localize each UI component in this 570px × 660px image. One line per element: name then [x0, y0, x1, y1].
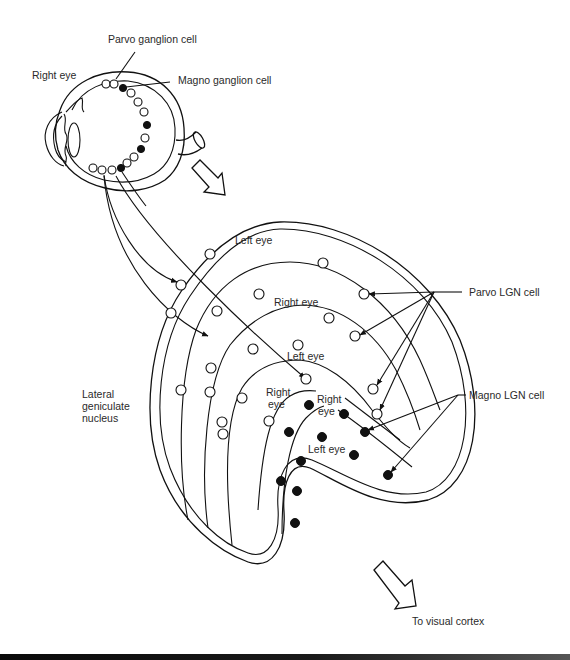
parvo-lgn-cell	[248, 344, 258, 354]
magno-lgn-cell	[297, 457, 306, 466]
label-layer-left-eye-6: Left eye	[308, 443, 346, 455]
bottom-scan-edge	[0, 654, 570, 660]
magno-lgn-cell	[361, 428, 370, 437]
layer-boundary-2	[205, 305, 420, 528]
parvo-ganglion-cell	[141, 134, 149, 142]
layer-boundary-5-right	[345, 398, 400, 440]
label-layer-right-eye-4a: Right	[266, 386, 291, 398]
parvo-lgn-cell	[301, 374, 311, 384]
parvo-lgn-cell	[350, 331, 360, 341]
magno-lgn-cell	[340, 410, 349, 419]
parvo-lgn-cell	[359, 289, 369, 299]
axon-fibres	[104, 172, 305, 378]
parvo-lgn-cell	[324, 313, 334, 323]
lateral-geniculate-nucleus	[150, 222, 475, 564]
parvo-lgn-cell	[166, 308, 176, 318]
axon-to-right	[116, 176, 305, 378]
axon-to-left-inner	[104, 176, 208, 336]
magno-lgn-cell	[318, 433, 327, 442]
parvo-ganglion-cell	[89, 164, 97, 172]
retina-cells	[89, 80, 151, 174]
magno-lgn-cells	[277, 401, 393, 528]
parvo-lgn-cell	[205, 249, 215, 259]
parvo-lgn-cell	[237, 393, 247, 403]
parvo-ganglion-cell	[134, 98, 142, 106]
label-layer-right-eye-5a: Right	[317, 393, 342, 405]
label-layer-right-eye-2: Right eye	[274, 296, 319, 308]
label-lgn-line2: geniculate	[82, 400, 130, 412]
arrow-eye-to-lgn-icon	[192, 160, 225, 195]
arrow-to-cortex-icon	[374, 561, 416, 609]
label-parvo-ganglion-cell: Parvo ganglion cell	[108, 33, 197, 45]
optic-nerve	[176, 132, 202, 155]
label-lgn-line1: Lateral	[82, 388, 114, 400]
parvo-ganglion-cell	[140, 108, 148, 116]
layer-boundary-5	[282, 406, 324, 534]
magno-lgn-cell	[350, 451, 359, 460]
parvo-lgn-cell	[212, 306, 222, 316]
magno-ganglion-cell	[117, 164, 124, 171]
parvo-lgn-cell	[176, 385, 186, 395]
parvo-lgn-leader	[369, 292, 434, 294]
parvo-lgn-cell	[218, 429, 228, 439]
label-layer-left-eye-outer: Left eye	[235, 234, 273, 246]
magno-lgn-cell	[293, 487, 302, 496]
parvo-lgn-cell	[176, 280, 186, 290]
parvo-lgn-cell	[206, 363, 216, 373]
parvo-ganglion-cell	[108, 166, 116, 174]
magno-lgn-cell	[285, 428, 294, 437]
label-magno-lgn-cell: Magno LGN cell	[469, 389, 544, 401]
magno-lgn-cell	[291, 519, 300, 528]
parvo-ganglion-cell	[127, 89, 135, 97]
parvo-lgn-cell	[264, 416, 274, 426]
lgn-diagram: Parvo ganglion cell Magno ganglion cell …	[0, 0, 570, 660]
parvo-ganglion-cell	[130, 153, 138, 161]
parvo-lgn-leader	[380, 292, 434, 410]
parvo-lgn-leader	[377, 292, 434, 385]
magno-lgn-leader	[391, 395, 458, 472]
label-to-visual-cortex: To visual cortex	[412, 615, 485, 627]
parvo-ganglion-cell	[98, 166, 106, 174]
iris	[64, 114, 67, 166]
parvo-lgn-cell	[293, 340, 303, 350]
label-lgn-line3: nucleus	[82, 412, 118, 424]
lgn-outer-wall	[150, 222, 475, 564]
lens	[68, 123, 80, 157]
label-layer-right-eye-4b: eye	[268, 398, 285, 410]
parvo-lgn-cell	[205, 387, 215, 397]
parvo-lgn-cell	[318, 258, 328, 268]
magno-lgn-cell	[305, 401, 314, 410]
magno-ganglion-cell	[143, 121, 150, 128]
parvo-lgn-cell	[217, 417, 227, 427]
magno-lgn-leaders	[368, 395, 466, 472]
parvo-lgn-leader	[360, 292, 434, 335]
label-right-eye: Right eye	[32, 69, 77, 81]
parvo-lgn-cell	[254, 289, 264, 299]
parvo-ganglion-cell	[102, 80, 110, 88]
optic-nerve-end	[191, 130, 207, 150]
label-layer-right-eye-5b: eye	[318, 405, 335, 417]
parvo-lgn-cell	[368, 384, 378, 394]
parvo-ganglion-leader	[116, 52, 135, 79]
parvo-ganglion-cell	[110, 80, 118, 88]
magno-lgn-cell	[277, 477, 286, 486]
magno-ganglion-cell	[119, 84, 126, 91]
parvo-lgn-cell	[372, 409, 382, 419]
label-layer-left-eye-3: Left eye	[287, 350, 325, 362]
label-magno-ganglion-cell: Magno ganglion cell	[178, 74, 271, 86]
label-parvo-lgn-cell: Parvo LGN cell	[469, 286, 540, 298]
parvo-lgn-cells	[166, 249, 382, 439]
magno-ganglion-cell	[137, 145, 144, 152]
